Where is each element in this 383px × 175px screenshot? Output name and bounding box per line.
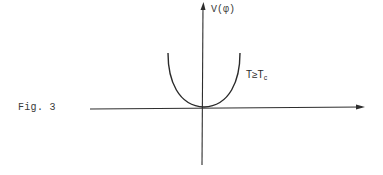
curve-label-subscript: c [264, 74, 268, 81]
potential-diagram [0, 0, 383, 175]
potential-curve [168, 53, 240, 107]
x-axis-arrow-icon [356, 105, 365, 110]
y-axis-arrow-icon [201, 2, 206, 10]
y-axis [201, 2, 206, 165]
curve-label-main: T≥T [246, 69, 264, 80]
figure-caption: Fig. 3 [18, 102, 56, 113]
x-axis [90, 105, 365, 110]
curve-label: T≥Tc [246, 69, 267, 81]
y-axis-label: V(φ) [211, 4, 235, 15]
